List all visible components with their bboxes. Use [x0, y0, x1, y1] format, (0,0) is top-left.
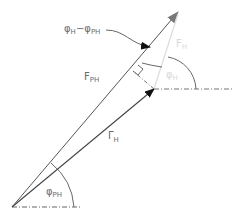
label-phi-ph: φPH [46, 186, 62, 199]
phasor-diagram: φH−φPH FPH ΓH FH φH φPH [0, 0, 242, 215]
f-ph-vector [12, 12, 178, 207]
label-f-h: FH [176, 38, 187, 51]
label-phi-h: φH [166, 69, 178, 82]
label-angle-diff: φH−φPH [64, 23, 100, 36]
label-gamma-h: ΓH [108, 130, 119, 144]
leader-curve [106, 30, 150, 47]
gamma-h-vector [12, 89, 154, 207]
label-f-ph: FPH [84, 71, 99, 84]
right-angle-mark [133, 65, 143, 75]
arc-phi-ph [51, 163, 74, 207]
arc-angle-diff [142, 63, 162, 67]
